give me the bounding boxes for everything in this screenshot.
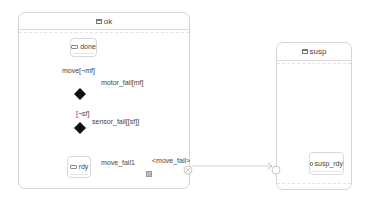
transition-label-sensor-fail[interactable]: sensor_fail[[sf]] xyxy=(92,118,139,126)
substate-rdy[interactable]: rdy xyxy=(67,156,91,178)
composite-state-icon xyxy=(302,49,308,54)
state-susp-label: susp xyxy=(310,47,327,56)
composite-state-icon xyxy=(96,19,102,24)
substate-divider xyxy=(70,174,88,175)
transition-label-motor-fail[interactable]: motor_fail[mf] xyxy=(101,79,143,87)
state-ok-header: ok xyxy=(19,13,189,30)
state-ok-label: ok xyxy=(104,17,112,26)
bottom-divider xyxy=(277,183,351,184)
transition-label-not-sf[interactable]: [¬sf] xyxy=(76,110,89,118)
header-divider xyxy=(277,63,351,64)
state-icon xyxy=(310,162,313,166)
choice-node-1[interactable] xyxy=(74,86,86,98)
state-susp-header: susp xyxy=(277,43,351,61)
transition-label-move-fail1[interactable]: move_fail1 xyxy=(101,159,135,167)
exit-point-label[interactable]: <move_fail> xyxy=(152,157,190,165)
choice-node-2[interactable] xyxy=(74,120,86,132)
transition-label-move-not-mf[interactable]: move[¬mf] xyxy=(62,67,95,75)
substate-divider xyxy=(312,171,341,172)
substate-susp-rdy[interactable]: susp_rdy xyxy=(309,152,344,175)
substate-done[interactable]: done xyxy=(70,38,97,57)
entry-point[interactable] xyxy=(271,161,281,171)
substate-susp-rdy-label: susp_rdy xyxy=(315,160,343,167)
substate-divider xyxy=(73,53,94,54)
state-icon xyxy=(70,165,77,169)
substate-done-label: done xyxy=(80,43,96,50)
state-icon xyxy=(71,45,78,49)
header-divider xyxy=(19,32,189,33)
substate-rdy-label: rdy xyxy=(79,163,89,170)
